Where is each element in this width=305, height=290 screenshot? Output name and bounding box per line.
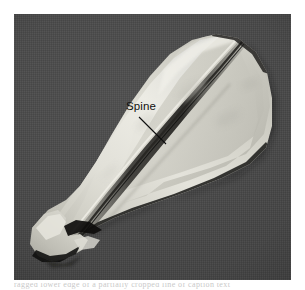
scapula-specimen xyxy=(14,14,291,280)
cropped-caption-sliver: ragged lower edge of a partially cropped… xyxy=(14,283,291,290)
caption-sliver-text: ragged lower edge of a partially cropped… xyxy=(14,283,291,289)
specimen-photograph: Spine xyxy=(14,14,291,280)
figure-page: Spine ragged lower edge of a partially c… xyxy=(0,0,305,290)
